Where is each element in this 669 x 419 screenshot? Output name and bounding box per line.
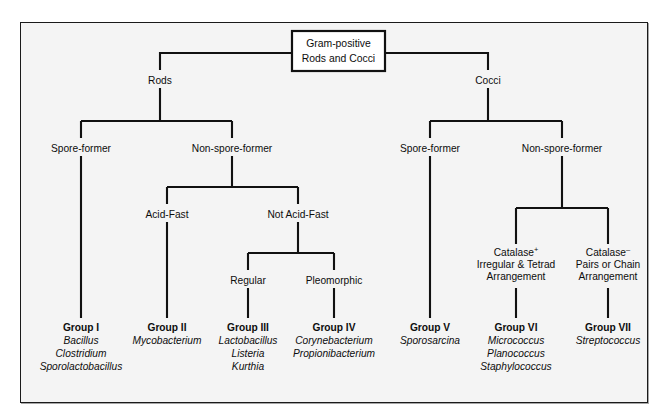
node-regular: Regular: [230, 275, 266, 286]
group-title: Group IV: [312, 322, 355, 333]
classification-flowchart: Gram-positive Rods and Cocci Rods Cocci …: [0, 0, 669, 419]
group-genus: Propionibacterium: [293, 348, 376, 359]
group-genus: Planococcus: [487, 348, 545, 359]
node-catalase-negative-line1: Catalase–: [586, 245, 631, 259]
catalase-negative-base: Catalase: [586, 247, 627, 258]
group-leaf: Group VIMicrococcusPlanococcusStaphyloco…: [480, 322, 551, 372]
group-leaf: Group IBacillusClostridiumSporolactobaci…: [40, 322, 123, 372]
group-genus: Sporosarcina: [400, 335, 460, 346]
edge-root-to-rods: [160, 53, 292, 70]
group-genus: Mycobacterium: [132, 335, 202, 346]
node-catalase-positive-line2: Irregular & Tetrad: [477, 259, 556, 270]
root-label-line1: Gram-positive: [306, 38, 371, 49]
edge-notacidfast-split: [248, 222, 334, 270]
edge-rods-split: [81, 88, 232, 138]
group-genus: Staphylococcus: [480, 361, 551, 372]
group-title: Group III: [227, 322, 269, 333]
group-genus: Bacillus: [63, 335, 98, 346]
group-title: Group II: [147, 322, 186, 333]
catalase-positive-superscript: +: [534, 245, 538, 254]
group-genus: Corynebacterium: [295, 335, 373, 346]
node-catalase-positive-line3: Arrangement: [487, 271, 546, 282]
catalase-negative-superscript: –: [626, 245, 631, 254]
root-node-box: [292, 31, 385, 71]
edge-cocci-split: [430, 88, 562, 138]
group-leaf: Group IIILactobacillusListeriaKurthia: [219, 322, 278, 372]
group-leaf: Group IVCorynebacteriumPropionibacterium: [293, 322, 376, 359]
node-catalase-negative-line3: Arrangement: [579, 271, 638, 282]
group-genus: Micrococcus: [488, 335, 545, 346]
group-title: Group VI: [494, 322, 537, 333]
group-genus: Kurthia: [232, 361, 265, 372]
group-title: Group I: [63, 322, 99, 333]
group-genus: Clostridium: [56, 348, 107, 359]
group-leaves-layer: Group IBacillusClostridiumSporolactobaci…: [40, 322, 641, 372]
group-title: Group V: [410, 322, 450, 333]
group-genus: Streptococcus: [576, 335, 641, 346]
group-leaf: Group IIMycobacterium: [132, 322, 202, 346]
node-cocci-non-spore-former: Non-spore-former: [522, 143, 603, 154]
node-catalase-negative-line2: Pairs or Chain: [576, 259, 641, 270]
node-cocci: Cocci: [475, 75, 500, 86]
edge-nonspore-split: [167, 156, 298, 204]
edge-root-to-cocci: [385, 53, 488, 70]
node-not-acid-fast: Not Acid-Fast: [267, 209, 328, 220]
node-rods-non-spore-former: Non-spore-former: [192, 143, 273, 154]
group-leaf: Group VSporosarcina: [400, 322, 460, 346]
node-pleomorphic: Pleomorphic: [306, 275, 363, 286]
node-rods: Rods: [148, 75, 172, 86]
node-rods-spore-former: Spore-former: [51, 143, 112, 154]
group-title: Group VII: [585, 322, 631, 333]
catalase-positive-base: Catalase: [494, 247, 535, 258]
group-leaf: Group VIIStreptococcus: [576, 322, 641, 346]
group-genus: Listeria: [232, 348, 265, 359]
root-node: Gram-positive Rods and Cocci: [292, 31, 385, 71]
node-catalase-positive: Catalase+ Irregular & Tetrad Arrangement: [477, 245, 556, 283]
group-genus: Sporolactobacillus: [40, 361, 123, 372]
group-genus: Lactobacillus: [219, 335, 278, 346]
node-acid-fast: Acid-Fast: [145, 209, 188, 220]
edge-cocci-nonspore-split: [516, 156, 608, 244]
root-label-line2: Rods and Cocci: [302, 53, 375, 64]
node-catalase-negative: Catalase– Pairs or Chain Arrangement: [576, 245, 641, 283]
node-catalase-positive-line1: Catalase+: [494, 245, 539, 259]
node-cocci-spore-former: Spore-former: [400, 143, 461, 154]
